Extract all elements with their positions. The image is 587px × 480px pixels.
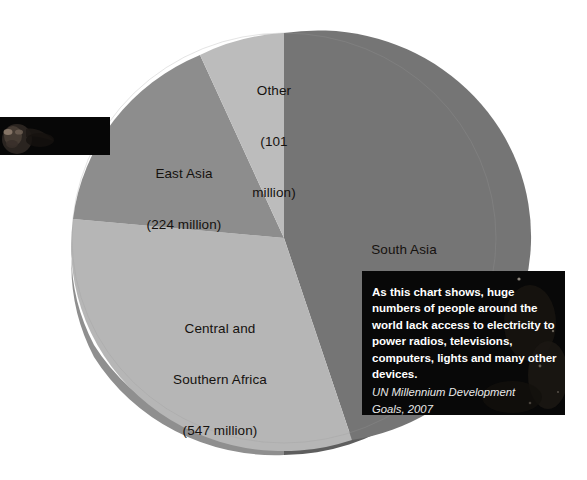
caption-source-line1: UN Millennium Development [372, 386, 515, 398]
caption-callout: As this chart shows, huge numbers of peo… [362, 271, 565, 415]
caption-text-block: As this chart shows, huge numbers of peo… [372, 284, 558, 415]
pie-chart-figure: Other (101 million) East Asia (224 milli… [0, 0, 587, 480]
pie-label-east-asia-name: East Asia [110, 165, 258, 182]
pie-label-africa-name-line1: Central and [120, 320, 320, 337]
pie-label-east-asia: East Asia (224 million) [110, 131, 258, 267]
caption-body-text: As this chart shows, huge numbers of peo… [372, 284, 558, 382]
pie-label-africa-value: (547 million) [120, 422, 320, 439]
pie-label-east-asia-value: (224 million) [110, 216, 258, 233]
caption-source-text: UN Millennium Development Goals, 2007 [372, 384, 558, 415]
caption-source-line2: Goals, 2007 [372, 403, 433, 415]
photo-strip-left [0, 117, 110, 155]
pie-label-africa-name-line2: Southern Africa [120, 371, 320, 388]
pie-label-other-name: Other [218, 82, 330, 99]
pie-label-central-southern-africa: Central and Southern Africa (547 million… [120, 286, 320, 473]
photo-face-image [0, 117, 110, 155]
pie-label-south-asia-name: South Asia [326, 241, 482, 258]
